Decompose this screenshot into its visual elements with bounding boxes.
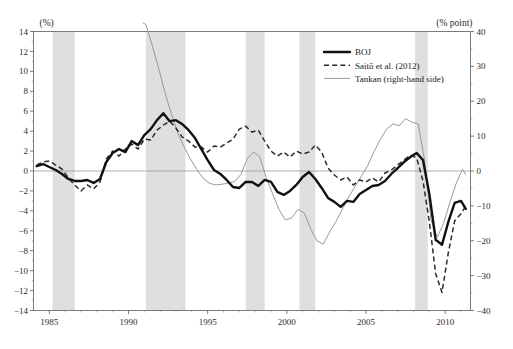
y-tick-label-right-3: 10 bbox=[477, 131, 487, 141]
chart-container: 14121086420−2−4−6−8−10−12−14403020100−10… bbox=[0, 0, 513, 349]
y-tick-label-left-8: −2 bbox=[18, 186, 28, 196]
x-tick-label-2: 1995 bbox=[199, 317, 218, 327]
y-tick-label-left-3: 8 bbox=[24, 86, 29, 96]
y-tick-label-left-1: 12 bbox=[19, 47, 28, 57]
y-tick-label-left-5: 4 bbox=[24, 126, 29, 136]
y-tick-label-right-6: −20 bbox=[477, 236, 492, 246]
y-tick-label-right-7: −30 bbox=[477, 271, 492, 281]
y-tick-label-right-0: 40 bbox=[477, 27, 487, 37]
y-tick-label-left-0: 14 bbox=[19, 27, 29, 37]
y-axis-unit-right: (% point) bbox=[436, 18, 472, 29]
y-tick-label-right-4: 0 bbox=[477, 166, 482, 176]
x-axis: 198519901995200020052010 bbox=[40, 311, 461, 327]
y-tick-label-left-2: 10 bbox=[19, 66, 29, 76]
y-axis-left: 14121086420−2−4−6−8−10−12−14 bbox=[14, 27, 34, 316]
legend-label-1: Saitō et al. (2012) bbox=[355, 61, 420, 71]
x-tick-label-1: 1990 bbox=[120, 317, 139, 327]
chart-svg: 14121086420−2−4−6−8−10−12−14403020100−10… bbox=[0, 0, 513, 349]
y-tick-label-left-10: −6 bbox=[18, 226, 28, 236]
y-axis-right: 403020100−10−20−30−40 bbox=[471, 27, 492, 316]
y-tick-label-left-7: 0 bbox=[24, 166, 29, 176]
legend-label-0: BOJ bbox=[355, 47, 372, 57]
y-tick-label-left-14: −14 bbox=[14, 306, 29, 316]
y-tick-label-left-4: 6 bbox=[24, 106, 29, 116]
y-tick-label-left-13: −12 bbox=[14, 286, 28, 296]
y-tick-label-left-12: −10 bbox=[14, 266, 29, 276]
y-tick-label-right-1: 30 bbox=[477, 61, 487, 71]
x-tick-label-3: 2000 bbox=[278, 317, 297, 327]
x-tick-label-0: 1985 bbox=[40, 317, 59, 327]
y-tick-label-right-2: 20 bbox=[477, 96, 487, 106]
y-axis-unit-left: (%) bbox=[40, 18, 54, 29]
y-tick-label-left-11: −8 bbox=[18, 246, 28, 256]
y-tick-label-right-8: −40 bbox=[477, 306, 492, 316]
y-tick-label-right-5: −10 bbox=[477, 201, 492, 211]
x-tick-label-4: 2005 bbox=[357, 317, 376, 327]
legend-label-2: Tankan (right-hand side) bbox=[355, 74, 444, 84]
y-tick-label-left-9: −4 bbox=[18, 206, 28, 216]
x-tick-label-5: 2010 bbox=[436, 317, 455, 327]
y-tick-label-left-6: 2 bbox=[24, 146, 29, 156]
